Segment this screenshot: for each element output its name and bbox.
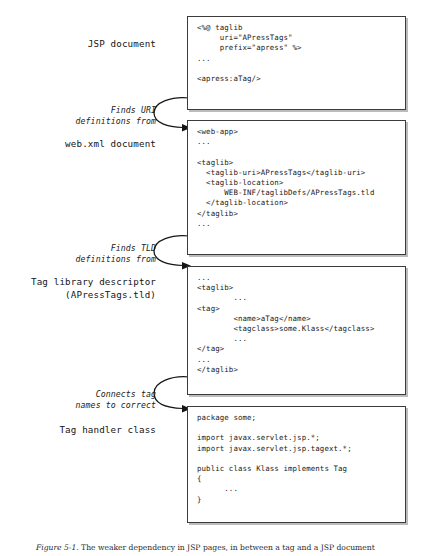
label-tag-handler-class-text: Tag handler class [4, 424, 156, 437]
label-tag-library-descriptor: Tag library descriptor (APressTags.tld) [4, 276, 156, 301]
code-box-tag-handler: package some; import javax.servlet.jsp.*… [187, 406, 406, 523]
label-jsp-document: JSP document [4, 38, 156, 51]
code-tag-handler: package some; import javax.servlet.jsp.*… [197, 413, 405, 505]
code-box-tld: ... <taglib> ... <tag> <name>aTag</name>… [187, 266, 406, 395]
figure-caption: Figure 5-1. The weaker dependency in JSP… [36, 543, 416, 553]
annotation-finds-tld: Finds TLD definitions from [4, 243, 156, 266]
code-jsp-document: <%@ taglib uri="APressTags" prefix="apre… [197, 23, 405, 84]
label-jsp-document-text: JSP document [4, 38, 156, 51]
arrow-jsp-to-webxml [150, 96, 192, 132]
annotation-connects-tag: Connects tag names to correct [4, 389, 156, 412]
annotation-connects-tag-text: Connects tag names to correct [4, 389, 156, 412]
arrow-webxml-to-tld [150, 234, 192, 270]
arrow-tld-to-handler [150, 375, 192, 413]
annotation-finds-uri: Finds URI definitions from [4, 105, 156, 128]
code-box-web-xml: <web-app> ... <taglib> <taglib-uri>APres… [187, 120, 406, 255]
code-web-xml: <web-app> ... <taglib> <taglib-uri>APres… [197, 127, 405, 229]
annotation-finds-tld-text: Finds TLD definitions from [4, 243, 156, 266]
figure-caption-text: The weaker dependency in JSP pages, in b… [81, 543, 375, 552]
label-tag-library-descriptor-text: Tag library descriptor (APressTags.tld) [4, 276, 156, 301]
code-tld: ... <taglib> ... <tag> <name>aTag</name>… [197, 273, 405, 375]
code-box-jsp-document: <%@ taglib uri="APressTags" prefix="apre… [187, 16, 406, 110]
figure-caption-label: Figure 5-1. [36, 543, 79, 552]
annotation-finds-uri-text: Finds URI definitions from [4, 105, 156, 128]
label-web-xml-document: web.xml document [4, 138, 156, 151]
label-web-xml-document-text: web.xml document [4, 138, 156, 151]
label-tag-handler-class: Tag handler class [4, 424, 156, 437]
